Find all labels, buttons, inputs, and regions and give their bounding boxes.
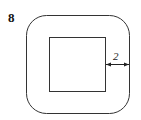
figure-diagram: 2 — [0, 0, 141, 120]
inner-square — [50, 38, 106, 92]
dimension-label: 2 — [113, 50, 119, 62]
double-arrow-icon — [106, 63, 129, 67]
